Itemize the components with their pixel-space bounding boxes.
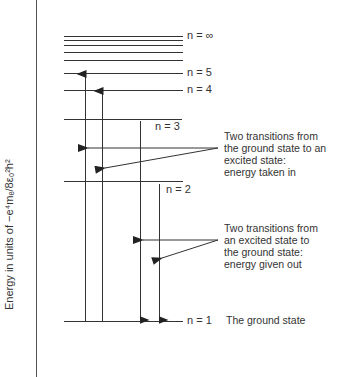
pointer-emission-b — [162, 240, 218, 258]
label-n2: n = 2 — [166, 183, 191, 195]
annotation-line: the ground state: — [224, 246, 318, 258]
annotation-emission: Two transitions from an excited state to… — [224, 222, 318, 270]
annotation-absorption: Two transitions from the ground state to… — [224, 130, 326, 178]
annotation-line: the ground state to an — [224, 142, 326, 154]
pointer-absorption-b — [105, 148, 218, 168]
label-ground-state: The ground state — [226, 314, 305, 326]
y-axis-label-text: Energy in units of −e⁴mₑ/8ε₀²h² — [3, 159, 15, 310]
annotation-line: energy taken in — [224, 166, 326, 178]
label-n5: n = 5 — [187, 66, 212, 78]
y-axis-label: Energy in units of −e⁴mₑ/8ε₀²h² — [3, 159, 15, 310]
label-n3: n = 3 — [155, 120, 180, 132]
annotation-line: an excited state to — [224, 234, 318, 246]
annotation-line: Two transitions from — [224, 222, 318, 234]
label-n4: n = 4 — [187, 83, 212, 95]
label-n1: n = 1 — [187, 314, 212, 326]
annotation-line: excited state: — [224, 154, 326, 166]
annotation-line: energy given out — [224, 258, 318, 270]
label-n-infinity: n = ∞ — [187, 29, 214, 41]
continuum-levels — [64, 37, 183, 61]
annotation-line: Two transitions from — [224, 130, 326, 142]
